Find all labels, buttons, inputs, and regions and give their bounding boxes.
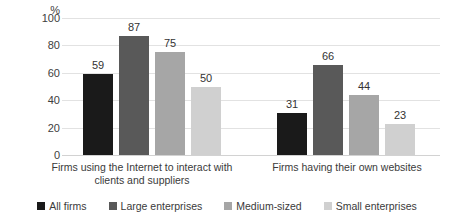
bar-fill	[277, 113, 307, 155]
legend-item-3[interactable]: Small enterprises	[324, 200, 417, 212]
bar-fill	[385, 124, 415, 156]
bar-fill	[83, 74, 113, 155]
bar-group-0: 59877550	[68, 18, 236, 155]
category-label-1: Firms having their own websites	[252, 161, 442, 174]
bar-value-label: 75	[164, 37, 176, 49]
y-tick-label-80: 80	[18, 40, 60, 50]
category-label-0-line-0: Firms using the Internet to interact wit…	[34, 161, 250, 174]
legend-swatch-icon	[109, 202, 117, 210]
legend-item-1[interactable]: Large enterprises	[109, 200, 203, 212]
y-tick-label-20: 20	[18, 123, 60, 133]
chart-legend: All firmsLarge enterprisesMedium-sizedSm…	[0, 200, 454, 212]
legend-label: Medium-sized	[236, 200, 301, 212]
bar-0-3: 50	[191, 87, 221, 156]
bar-0-1: 87	[119, 36, 149, 155]
bar-chart: % 100806040200 59877550 31664423 Firms u…	[0, 0, 454, 222]
bar-0-2: 75	[155, 52, 185, 155]
bar-value-label: 66	[322, 50, 334, 62]
legend-item-2[interactable]: Medium-sized	[224, 200, 301, 212]
bar-fill	[313, 65, 343, 155]
gridline-0	[62, 155, 440, 156]
category-label-0-line-1: clients and suppliers	[34, 174, 250, 187]
bar-value-label: 44	[358, 80, 370, 92]
bar-value-label: 59	[92, 59, 104, 71]
legend-label: Large enterprises	[121, 200, 203, 212]
category-label-0: Firms using the Internet to interact wit…	[34, 161, 250, 187]
bar-value-label: 23	[394, 109, 406, 121]
legend-label: All firms	[49, 200, 86, 212]
bar-1-3: 23	[385, 124, 415, 156]
bar-fill	[349, 95, 379, 155]
bar-value-label: 87	[128, 21, 140, 33]
legend-swatch-icon	[324, 202, 332, 210]
bar-1-0: 31	[277, 113, 307, 155]
legend-label: Small enterprises	[336, 200, 417, 212]
legend-swatch-icon	[37, 202, 45, 210]
legend-item-0[interactable]: All firms	[37, 200, 86, 212]
bar-0-0: 59	[83, 74, 113, 155]
bar-fill	[119, 36, 149, 155]
plot-area: 59877550 31664423	[62, 18, 440, 155]
y-tick-label-40: 40	[18, 95, 60, 105]
y-tick-label-0: 0	[18, 150, 60, 160]
bar-group-1: 31664423	[262, 18, 430, 155]
bar-value-label: 31	[286, 98, 298, 110]
legend-swatch-icon	[224, 202, 232, 210]
bar-1-1: 66	[313, 65, 343, 155]
y-tick-label-60: 60	[18, 68, 60, 78]
bar-1-2: 44	[349, 95, 379, 155]
y-tick-label-100: 100	[18, 13, 60, 23]
bar-fill	[191, 87, 221, 156]
bar-fill	[155, 52, 185, 155]
category-label-1-line-0: Firms having their own websites	[252, 161, 442, 174]
bar-value-label: 50	[200, 72, 212, 84]
